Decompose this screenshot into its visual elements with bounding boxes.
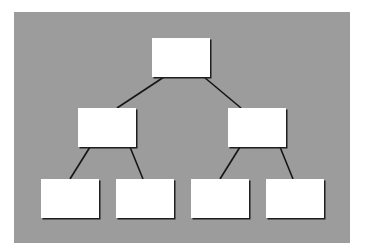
node-mid-l xyxy=(78,108,138,149)
node-leaf-2 xyxy=(116,179,176,220)
node-box xyxy=(266,179,324,218)
node-box xyxy=(152,38,210,77)
node-box xyxy=(78,108,136,147)
node-root xyxy=(152,38,212,79)
node-leaf-1 xyxy=(41,179,101,220)
node-box xyxy=(228,108,286,147)
node-leaf-3 xyxy=(191,179,251,220)
node-mid-r xyxy=(228,108,288,149)
node-leaf-4 xyxy=(266,179,326,220)
node-box xyxy=(41,179,99,218)
tree-diagram xyxy=(0,0,365,251)
node-box xyxy=(191,179,249,218)
node-box xyxy=(116,179,174,218)
